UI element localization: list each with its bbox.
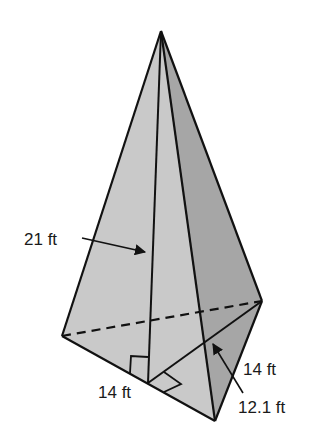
base-altitude-label: 12.1 ft [238,398,286,417]
pyramid-diagram: 21 ft 14 ft 14 ft 12.1 ft [0,0,320,445]
base-front-label: 14 ft [98,383,131,402]
base-right-label: 14 ft [243,360,276,379]
height-label: 21 ft [24,230,57,249]
